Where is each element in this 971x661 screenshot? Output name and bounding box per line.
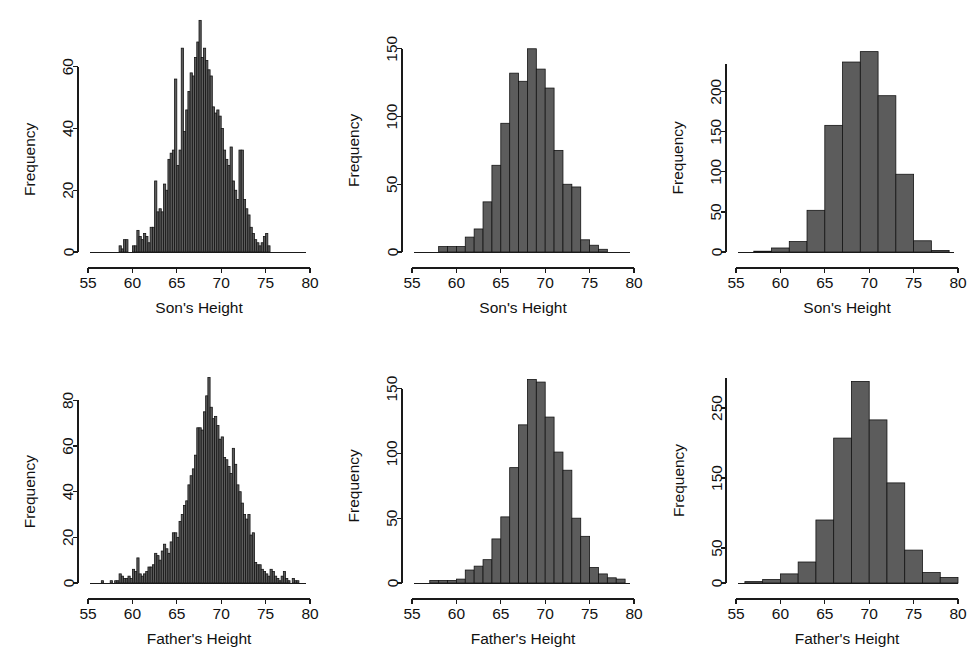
histogram-bar bbox=[510, 73, 519, 252]
x-axis-tick-label: 70 bbox=[537, 274, 555, 291]
histogram-bar bbox=[519, 425, 528, 583]
histogram-bar bbox=[563, 184, 572, 252]
x-axis: 556065707580 bbox=[727, 599, 967, 622]
y-axis-tick-label: 60 bbox=[60, 437, 77, 455]
panel-sons-height-medium: 050100150Frequency556065707580Son's Heig… bbox=[324, 0, 647, 330]
y-axis-tick-label: 100 bbox=[708, 159, 725, 185]
histogram-bar bbox=[914, 241, 932, 252]
y-axis-tick-label: 0 bbox=[384, 578, 401, 587]
x-axis-tick-label: 75 bbox=[257, 605, 274, 622]
histogram-bar bbox=[456, 247, 465, 252]
histogram-bar bbox=[851, 381, 869, 583]
x-axis-title: Son's Height bbox=[155, 299, 243, 316]
x-axis-tick-label: 80 bbox=[301, 605, 319, 622]
histogram-bar bbox=[940, 577, 958, 583]
histogram-bar bbox=[616, 579, 625, 583]
y-axis: 050150250 bbox=[708, 378, 727, 587]
histogram-bar bbox=[816, 520, 834, 583]
histogram-bar bbox=[545, 417, 554, 583]
x-axis: 556065707580 bbox=[403, 599, 643, 622]
y-axis-tick-label: 150 bbox=[384, 35, 401, 61]
histogram-bar bbox=[572, 187, 581, 252]
x-axis-title: Son's Height bbox=[803, 299, 891, 316]
panel-fathers-height-fine: 020406080Frequency556065707580Father's H… bbox=[0, 331, 323, 661]
x-axis-tick-label: 70 bbox=[861, 605, 879, 622]
bars-group bbox=[439, 49, 608, 252]
histogram-bar bbox=[492, 539, 501, 583]
x-axis-tick-label: 55 bbox=[727, 605, 744, 622]
x-axis-tick-label: 60 bbox=[448, 274, 466, 291]
x-axis: 556065707580 bbox=[79, 599, 319, 622]
x-axis: 556065707580 bbox=[403, 268, 643, 291]
histogram-bar bbox=[590, 245, 599, 252]
histogram-bar bbox=[563, 470, 572, 583]
histogram-bar bbox=[789, 242, 807, 252]
y-axis-tick-label: 150 bbox=[708, 118, 725, 144]
y-axis-tick-label: 20 bbox=[60, 528, 77, 546]
y-axis-title: Frequency bbox=[21, 455, 38, 528]
y-axis: 050100150 bbox=[384, 35, 403, 256]
x-axis-tick-label: 60 bbox=[772, 605, 790, 622]
x-axis-title: Father's Height bbox=[147, 630, 252, 647]
y-axis-tick-label: 40 bbox=[60, 119, 77, 137]
y-axis-tick-label: 0 bbox=[708, 578, 725, 587]
histogram-bar bbox=[590, 567, 599, 583]
x-axis-tick-label: 80 bbox=[625, 605, 643, 622]
histogram-bar bbox=[483, 560, 492, 583]
x-axis-tick-label: 75 bbox=[905, 274, 922, 291]
bars-group bbox=[745, 381, 958, 583]
y-axis: 050100150 bbox=[384, 375, 403, 587]
histogram-bar bbox=[834, 438, 852, 583]
x-axis: 556065707580 bbox=[727, 268, 967, 291]
x-axis-tick-label: 55 bbox=[79, 605, 96, 622]
histogram-bar bbox=[492, 165, 501, 252]
y-axis-tick-label: 60 bbox=[60, 58, 77, 76]
y-axis-tick-label: 50 bbox=[384, 175, 401, 193]
histogram-bar bbox=[896, 174, 914, 252]
x-axis-tick-label: 65 bbox=[492, 605, 509, 622]
x-axis-title: Father's Height bbox=[471, 630, 576, 647]
y-axis-title: Frequency bbox=[345, 114, 362, 187]
histogram-bar bbox=[860, 52, 878, 252]
x-axis-tick-label: 60 bbox=[448, 605, 466, 622]
y-axis-tick-label: 100 bbox=[384, 103, 401, 129]
histogram-bar bbox=[763, 580, 781, 584]
y-axis-title: Frequency bbox=[669, 121, 686, 194]
y-axis-tick-label: 0 bbox=[708, 247, 725, 256]
x-axis-tick-label: 70 bbox=[861, 274, 879, 291]
y-axis-tick-label: 80 bbox=[60, 391, 77, 409]
chart-sons-height-medium: 050100150Frequency556065707580Son's Heig… bbox=[324, 0, 647, 330]
x-axis-tick-label: 60 bbox=[772, 274, 790, 291]
x-axis-tick-label: 65 bbox=[816, 274, 833, 291]
x-axis-tick-label: 70 bbox=[537, 605, 555, 622]
histogram-bar bbox=[780, 574, 798, 583]
y-axis-tick-label: 250 bbox=[708, 395, 725, 421]
histogram-bar bbox=[536, 69, 545, 252]
histogram-bar bbox=[581, 240, 590, 252]
chart-fathers-height-fine: 020406080Frequency556065707580Father's H… bbox=[0, 331, 323, 661]
x-axis-tick-label: 75 bbox=[581, 605, 598, 622]
y-axis-tick-label: 200 bbox=[708, 78, 725, 104]
histogram-bar bbox=[501, 123, 510, 252]
x-axis-tick-label: 80 bbox=[949, 274, 967, 291]
y-axis-title: Frequency bbox=[670, 444, 687, 517]
histogram-bar bbox=[922, 573, 940, 584]
histogram-bar bbox=[439, 247, 448, 252]
histogram-bar bbox=[501, 517, 510, 583]
x-axis-tick-label: 65 bbox=[168, 605, 185, 622]
y-axis: 020406080 bbox=[60, 391, 79, 587]
y-axis-tick-label: 0 bbox=[384, 247, 401, 256]
histogram-bar bbox=[527, 49, 536, 252]
histogram-bar bbox=[545, 88, 554, 252]
x-axis-tick-label: 60 bbox=[124, 274, 142, 291]
x-axis-tick-label: 55 bbox=[727, 274, 744, 291]
histogram-bar bbox=[798, 562, 816, 583]
x-axis-tick-label: 70 bbox=[213, 605, 231, 622]
panel-fathers-height-medium: 050100150Frequency556065707580Father's H… bbox=[324, 331, 647, 661]
histogram-bar bbox=[772, 248, 790, 252]
histogram-bar bbox=[474, 229, 483, 252]
histogram-bar bbox=[474, 566, 483, 583]
y-axis-title: Frequency bbox=[22, 122, 39, 195]
bars-group bbox=[119, 20, 270, 252]
y-axis-tick-label: 20 bbox=[60, 181, 77, 199]
